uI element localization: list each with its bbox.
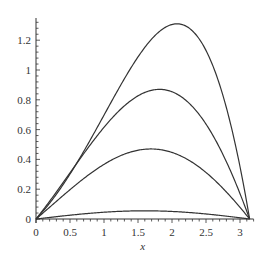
- line-curve-2: [36, 89, 250, 219]
- y-tick-label: 1: [26, 64, 32, 76]
- y-tick-label: 0: [26, 213, 32, 225]
- x-tick-label: 0: [33, 226, 39, 238]
- line-curve-4: [36, 211, 250, 219]
- y-tick-label: 1.2: [17, 34, 31, 46]
- x-tick-label: 1: [101, 226, 107, 238]
- y-tick-label: 0.2: [17, 183, 31, 195]
- x-tick-label: 0.5: [63, 226, 77, 238]
- y-tick-label: 0.4: [17, 153, 31, 165]
- x-tick-label: 2.5: [199, 226, 213, 238]
- y-tick-label: 0.6: [17, 124, 31, 136]
- x-tick-label: 3: [237, 226, 243, 238]
- plot-lines: [36, 24, 250, 219]
- line-curve-3: [36, 149, 250, 219]
- chart-svg: 00.511.522.5300.20.40.60.811.2 x: [0, 0, 268, 265]
- x-tick-label: 2: [169, 226, 175, 238]
- line-curve-1: [36, 24, 250, 219]
- x-axis-title: x: [139, 240, 145, 252]
- y-tick-label: 0.8: [17, 94, 31, 106]
- x-tick-label: 1.5: [131, 226, 145, 238]
